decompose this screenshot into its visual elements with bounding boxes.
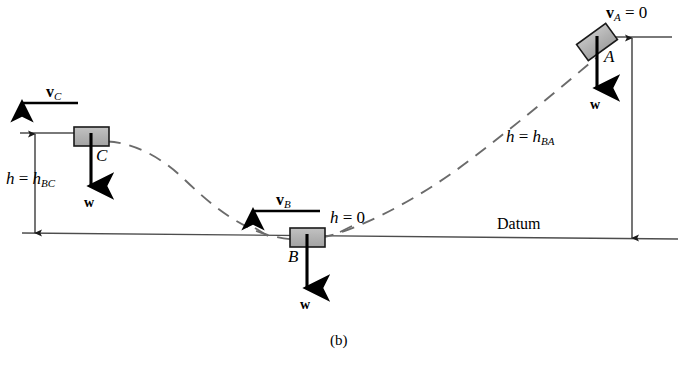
- velocity-b-symbol: v: [276, 191, 284, 208]
- velocity-label-c: vC: [46, 84, 61, 100]
- point-label-a: A: [604, 48, 614, 65]
- datum-line: [22, 233, 678, 239]
- height-b-equals: =: [343, 208, 353, 227]
- height-bc-subscript: BC: [41, 177, 55, 189]
- height-b-value: 0: [357, 208, 366, 227]
- velocity-b-subscript: B: [284, 198, 291, 210]
- velocity-label-b: vB: [276, 192, 291, 208]
- velocity-a-subscript: A: [614, 11, 621, 23]
- height-ba-subscript: BA: [541, 135, 554, 147]
- velocity-c-symbol: v: [46, 83, 54, 100]
- diagram-canvas: [0, 0, 678, 370]
- height-label-ba: h = hBA: [506, 128, 555, 145]
- point-label-b: B: [288, 248, 298, 265]
- figure-caption: (b): [330, 333, 348, 348]
- height-bc-lhs: h: [6, 169, 15, 188]
- height-ba-lhs: h: [506, 127, 515, 146]
- weight-label-b: w: [300, 298, 310, 312]
- weight-label-c: w: [84, 196, 94, 210]
- height-b-lhs: h: [330, 208, 339, 227]
- velocity-c-subscript: C: [54, 90, 61, 102]
- height-label-bc: h = hBC: [6, 170, 55, 187]
- velocity-a-value: = 0: [625, 3, 647, 22]
- datum-label: Datum: [497, 216, 541, 232]
- physics-diagram-figure: vC h = hBC C w vB h = 0 B w vA = 0 A w h…: [0, 0, 678, 370]
- point-label-c: C: [96, 147, 107, 164]
- height-ba-var: h: [533, 127, 542, 146]
- height-ba-equals: =: [519, 127, 529, 146]
- weight-label-a: w: [590, 98, 600, 112]
- height-label-b: h = 0: [330, 209, 365, 226]
- velocity-a-symbol: v: [606, 4, 614, 21]
- velocity-label-a: vA = 0: [606, 4, 647, 21]
- height-bc-equals: =: [19, 169, 29, 188]
- height-bc-var: h: [33, 169, 42, 188]
